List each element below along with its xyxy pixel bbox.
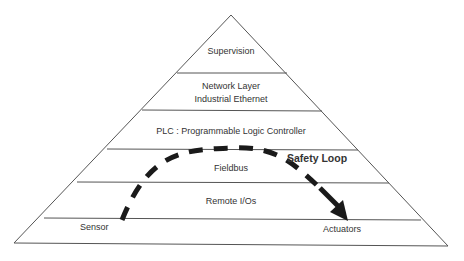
layer-sensor-label: Sensor (80, 222, 109, 232)
layer-supervision-label: Supervision (207, 45, 254, 57)
layer-actuators-label: Actuators (323, 224, 361, 234)
layer-fieldbus-label: Fieldbus (214, 162, 248, 174)
layer-network-sublabel: Industrial Ethernet (194, 93, 267, 105)
layer-plc-label: PLC : Programmable Logic Controller (156, 125, 306, 137)
safety-loop-label: Safety Loop (287, 152, 347, 164)
layer-remoteio-label: Remote I/Os (206, 195, 257, 207)
layer-network-label: Network Layer (202, 80, 260, 92)
